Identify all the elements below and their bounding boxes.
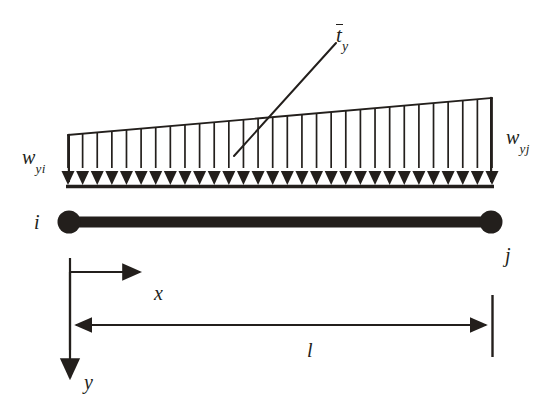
load-arrow-head [471,171,484,185]
load-arrow-head [295,171,308,185]
coordinate-axes [70,258,140,378]
load-arrow-head [427,171,440,185]
node-j-label: j [505,245,511,265]
load-arrow-head [252,171,265,185]
node-j-marker [480,211,503,234]
span-length-label: l [307,340,313,360]
load-left-label: wyi [22,147,45,171]
load-right-symbol: w [506,126,519,148]
load-arrow-head [178,171,191,185]
load-left-symbol: w [22,146,35,168]
load-intensity-arrows [62,98,499,185]
x-axis-label: x [154,283,163,303]
traction-symbol: t [336,25,342,46]
span-dimension [76,295,493,357]
load-arrow-head [339,171,352,185]
y-axis-label: y [84,372,93,392]
node-i-label: i [34,212,40,232]
load-arrow-head [135,171,148,185]
load-arrow-head [398,171,411,185]
load-arrow-head [208,171,221,185]
traction-subscript: y [342,39,348,54]
load-arrow-head [412,171,425,185]
distributed-load-block [62,98,499,187]
load-arrow-head [193,171,206,185]
beam-element [58,211,503,234]
beam-load-diagram: ty wyi wyj i j x y l [0,0,554,403]
load-arrow-head [149,171,162,185]
traction-leader-line [234,43,336,156]
load-arrow-head [456,171,469,185]
load-right-label: wyj [506,127,529,151]
load-arrow-head [164,171,177,185]
load-arrow-head [222,171,235,185]
diagram-canvas [0,0,554,403]
load-arrow-head [310,171,323,185]
load-arrow-head [105,171,118,185]
traction-label: ty [336,25,348,50]
load-right-subscript: yj [520,141,530,156]
load-left-subscript: yi [36,161,46,176]
load-arrow-head [237,171,250,185]
load-arrow-head [281,171,294,185]
load-arrow-head [369,171,382,185]
load-arrow-head [91,171,104,185]
load-arrow-head [76,171,89,185]
node-i-marker [58,211,81,234]
load-arrow-head [442,171,455,185]
load-arrow-head [354,171,367,185]
load-arrow-head [120,171,133,185]
load-arrow-head [325,171,338,185]
load-arrow-head [266,171,279,185]
load-arrow-head [383,171,396,185]
